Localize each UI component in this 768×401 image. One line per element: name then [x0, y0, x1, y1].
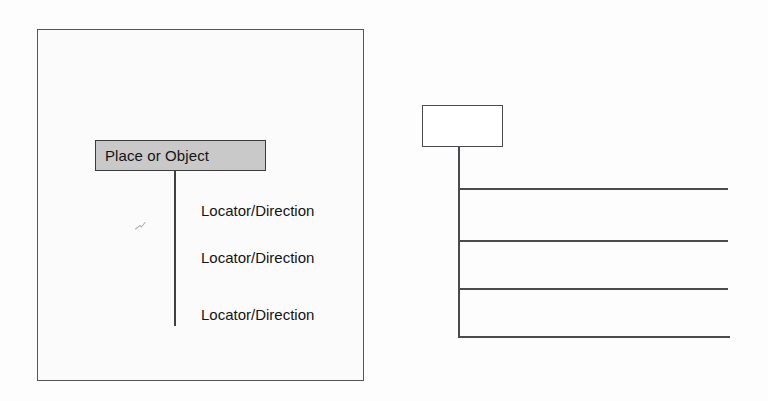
left-diagram-frame: Place or Object Locator/Direction Locato…: [37, 29, 364, 381]
branch-label-2: Locator/Direction: [201, 250, 314, 265]
branch-label-1: Locator/Direction: [201, 203, 314, 218]
blank-branch-rule-4[interactable]: [458, 336, 730, 338]
branch-label-3: Locator/Direction: [201, 307, 314, 322]
figure-canvas: Place or Object Locator/Direction Locato…: [0, 0, 768, 401]
tree-stem-left: [174, 170, 176, 326]
root-node-label: Place or Object: [105, 148, 209, 163]
blank-root-node[interactable]: [422, 105, 503, 147]
root-node-place-or-object[interactable]: Place or Object: [95, 140, 266, 171]
blank-branch-rule-2[interactable]: [458, 240, 728, 242]
blank-branch-rule-1[interactable]: [458, 188, 728, 190]
blank-branch-rule-3[interactable]: [458, 288, 728, 290]
scan-artifact-dot: [279, 396, 284, 401]
scan-artifact-speck: [135, 216, 146, 224]
